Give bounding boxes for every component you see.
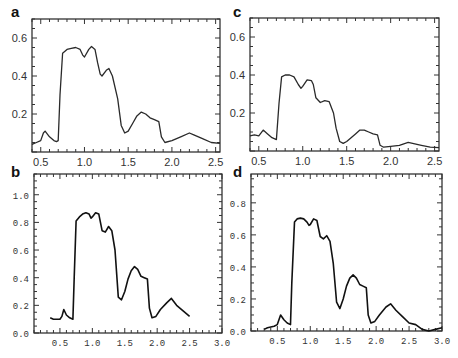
panel-c-chart: 0.51.01.52.02.50.20.40.6 (230, 18, 443, 167)
x-tick-label: 1.5 (339, 155, 354, 167)
x-tick-label: 2.0 (383, 155, 398, 167)
y-tick-label: 0.6 (12, 32, 27, 44)
y-tick-label: 0.6 (230, 232, 246, 242)
panel-label-d: d (233, 163, 242, 180)
y-tick-label: 0.2 (230, 107, 245, 119)
panel-b-chart: 0.51.01.52.02.53.00.00.20.40.60.81.0 (13, 174, 230, 349)
x-tick-label: 0.5 (33, 156, 48, 168)
x-tick-label: 2.5 (208, 156, 223, 168)
x-tick-label: 1.0 (84, 339, 100, 349)
x-tick-label: 0.5 (269, 337, 285, 347)
y-tick-label: 0.2 (12, 108, 27, 120)
y-tick-label: 0.8 (230, 200, 246, 210)
plot-frame (251, 174, 442, 331)
x-tick-label: 2.5 (401, 337, 417, 347)
figure-canvas: 0.51.01.52.02.50.20.40.6 0.51.01.52.02.5… (0, 0, 458, 358)
x-tick-label: 1.0 (295, 155, 310, 167)
panel-a-chart: 0.51.01.52.02.50.20.40.6 (12, 19, 224, 168)
y-tick-label: 0.4 (13, 275, 29, 285)
x-tick-label: 2.5 (427, 155, 442, 167)
y-tick-label: 0.2 (230, 296, 246, 306)
spectrum-curve (32, 47, 220, 145)
y-tick-label: 1.0 (13, 192, 29, 202)
x-tick-label: 1.5 (335, 337, 351, 347)
x-tick-label: 2.0 (149, 339, 165, 349)
y-tick-label: 0.0 (230, 328, 246, 338)
x-tick-label: 0.5 (251, 155, 266, 167)
spectrum-curve (250, 75, 439, 148)
x-tick-label: 1.0 (302, 337, 318, 347)
plot-frame (250, 18, 439, 151)
y-tick-label: 0.8 (13, 219, 29, 229)
x-tick-label: 1.5 (121, 156, 136, 168)
x-tick-label: 2.5 (181, 339, 197, 349)
y-tick-label: 0.4 (230, 69, 245, 81)
y-tick-label: 0.4 (12, 70, 27, 82)
x-tick-label: 2.0 (164, 156, 179, 168)
panel-label-a: a (11, 3, 19, 20)
plot-frame (34, 174, 222, 333)
y-tick-label: 0.4 (230, 264, 246, 274)
y-tick-label: 0.0 (13, 330, 29, 340)
x-tick-label: 2.0 (368, 337, 384, 347)
y-tick-label: 0.6 (230, 31, 245, 43)
x-tick-label: 0.5 (52, 339, 68, 349)
x-tick-label: 1.5 (117, 339, 133, 349)
panel-label-b: b (11, 163, 20, 180)
panel-d-chart: 0.51.01.52.02.53.00.00.20.40.60.8 (230, 174, 450, 347)
y-tick-label: 0.2 (13, 302, 29, 312)
y-tick-label: 0.6 (13, 247, 29, 257)
x-tick-label: 1.0 (77, 156, 92, 168)
spectrum-curve (50, 213, 189, 320)
panel-label-c: c (233, 3, 241, 20)
spectrum-curve (264, 218, 442, 331)
x-tick-label: 3.0 (434, 337, 450, 347)
x-tick-label: 3.0 (214, 339, 230, 349)
